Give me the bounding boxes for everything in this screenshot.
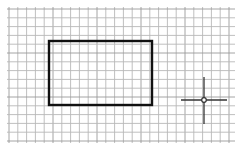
grid-diagram (0, 0, 238, 148)
rectangle-shape (49, 41, 152, 105)
grid-lines (7, 7, 235, 143)
crosshair-center-point (202, 98, 207, 103)
